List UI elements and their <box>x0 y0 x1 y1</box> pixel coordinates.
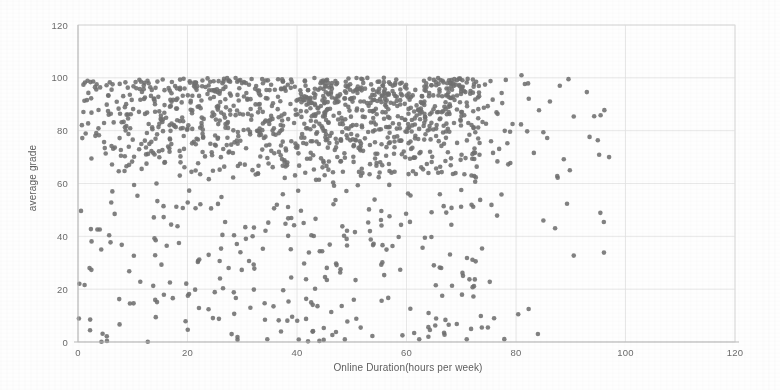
data-point <box>386 107 391 112</box>
data-point <box>571 114 576 119</box>
data-point <box>441 204 446 209</box>
data-point <box>596 138 601 143</box>
data-point <box>272 151 277 156</box>
data-point <box>387 130 392 135</box>
data-point <box>460 292 465 297</box>
data-point <box>446 150 451 155</box>
data-point <box>495 213 500 218</box>
data-point <box>107 233 112 238</box>
data-point <box>86 91 91 96</box>
data-point <box>236 78 241 83</box>
data-point <box>470 285 475 290</box>
data-point <box>311 113 316 118</box>
data-point <box>128 301 133 306</box>
data-point <box>472 146 477 151</box>
data-point <box>270 165 275 170</box>
data-point <box>299 115 304 120</box>
data-point <box>152 236 157 241</box>
data-point <box>396 235 401 240</box>
data-point <box>132 254 137 259</box>
data-point <box>200 127 205 132</box>
data-point <box>185 200 190 205</box>
data-point <box>249 117 254 122</box>
data-point <box>478 198 483 203</box>
data-point <box>449 222 454 227</box>
data-point <box>233 113 238 118</box>
data-point <box>169 222 174 227</box>
data-point <box>487 280 492 285</box>
data-point <box>410 123 415 128</box>
data-point <box>127 269 132 274</box>
data-point <box>80 123 85 128</box>
data-point <box>344 189 349 194</box>
data-point <box>355 133 360 138</box>
data-point <box>473 259 478 264</box>
data-point <box>449 96 454 101</box>
data-point <box>292 223 297 228</box>
x-tick-label: 40 <box>292 347 303 358</box>
data-point <box>296 151 301 156</box>
data-point <box>345 136 350 141</box>
data-point <box>186 293 191 298</box>
data-point <box>166 86 171 91</box>
data-point <box>469 327 474 332</box>
data-point <box>116 169 121 174</box>
data-point <box>437 265 442 270</box>
data-point <box>286 299 291 304</box>
data-point <box>161 204 166 209</box>
data-point <box>426 325 431 330</box>
data-point <box>82 99 87 104</box>
data-point <box>153 253 158 258</box>
data-point <box>510 122 515 127</box>
data-point <box>135 194 140 199</box>
data-point <box>455 107 460 112</box>
data-point <box>340 224 345 229</box>
data-point <box>157 109 162 114</box>
data-point <box>119 148 124 153</box>
data-point <box>293 107 298 112</box>
data-point <box>333 137 338 142</box>
data-point <box>338 270 343 275</box>
data-point <box>219 195 224 200</box>
data-point <box>428 137 433 142</box>
data-point <box>175 96 180 101</box>
data-point <box>263 228 268 233</box>
data-point <box>281 192 286 197</box>
data-point <box>438 192 443 197</box>
data-point <box>377 127 382 132</box>
data-point <box>330 333 335 338</box>
data-point <box>283 221 288 226</box>
data-point <box>305 156 310 161</box>
data-point <box>348 82 353 87</box>
data-point <box>459 204 464 209</box>
data-point <box>384 145 389 150</box>
data-point <box>449 156 454 161</box>
data-point <box>234 296 239 301</box>
data-point <box>412 109 417 114</box>
data-point <box>280 139 285 144</box>
data-point <box>271 304 276 309</box>
data-point <box>309 139 314 144</box>
data-point <box>398 102 403 107</box>
data-point <box>451 172 456 177</box>
data-point <box>117 297 122 302</box>
data-point <box>490 97 495 102</box>
data-point <box>439 170 444 175</box>
data-point <box>188 99 193 104</box>
data-point <box>155 199 160 204</box>
data-point <box>304 109 309 114</box>
data-point <box>352 297 357 302</box>
data-point <box>236 130 241 135</box>
data-point <box>199 115 204 120</box>
data-point <box>168 97 173 102</box>
data-point <box>354 108 359 113</box>
data-point <box>311 153 316 158</box>
data-point <box>343 117 348 122</box>
data-point <box>371 116 376 121</box>
data-point <box>335 94 340 99</box>
data-point <box>508 161 513 166</box>
data-point <box>293 112 298 117</box>
data-point <box>378 160 383 165</box>
data-point <box>331 202 336 207</box>
data-point <box>421 167 426 172</box>
